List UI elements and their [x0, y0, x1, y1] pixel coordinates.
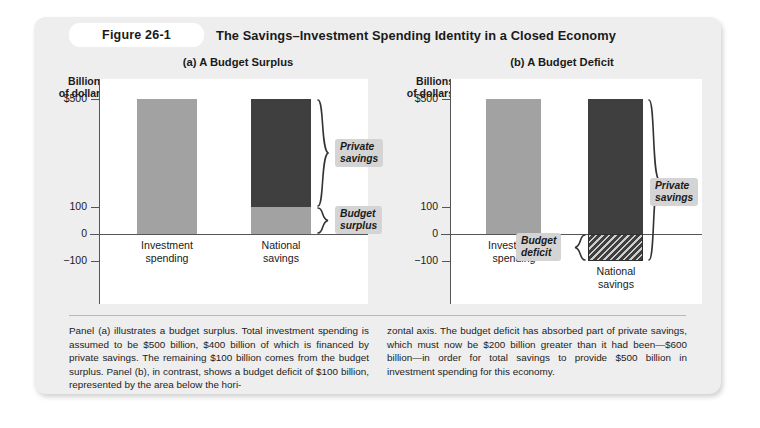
panel-a-tick-100 — [91, 207, 99, 208]
panel-a-bar-investment-spending — [137, 99, 197, 234]
caption-column-right: zontal axis. The budget deficit has abso… — [387, 324, 687, 392]
panel-a-barlabel-national-line1: National — [231, 239, 331, 252]
panel-b-callout-private-savings: Private savings — [650, 178, 698, 206]
panel-b-zero-line — [441, 234, 702, 235]
panel-a-barlabel-investment: Investment spending — [117, 239, 217, 264]
panel-a-brace-private-savings — [317, 99, 329, 207]
panel-a-barlabel-investment-line1: Investment — [117, 239, 217, 252]
panel-b-tick-100 — [442, 207, 450, 208]
panel-a-plot-area: $500 100 0 −100 Investment spending Nati… — [99, 79, 368, 304]
panel-b-ticklabel-500: $500 — [392, 92, 438, 104]
panel-a-ticklabel-0: 0 — [41, 227, 87, 239]
panel-b-brace-budget-deficit — [574, 234, 586, 261]
panel-a-tick-500 — [91, 99, 99, 100]
panel-a-callout-budget-surplus: Budget surplus — [335, 206, 382, 234]
panel-a-barlabel-national: National savings — [231, 239, 331, 264]
figure-title: The Savings–Investment Spending Identity… — [216, 28, 616, 43]
panel-b-callout-budget-deficit-line2: deficit — [521, 247, 556, 259]
panel-budget-surplus: (a) A Budget Surplus Billions of dollars… — [42, 53, 382, 309]
panel-a-y-axis — [99, 79, 100, 304]
panel-b-callout-budget-deficit-line1: Budget — [521, 235, 556, 247]
panel-b-y-axis — [450, 79, 451, 304]
panel-b-barlabel-national-line1: National — [566, 265, 666, 278]
panel-b-tick-500 — [442, 99, 450, 100]
panel-a-title: (a) A Budget Surplus — [42, 56, 408, 68]
figure-number-badge: Figure 26-1 — [69, 23, 204, 47]
panel-a-ticklabel-500: $500 — [41, 92, 87, 104]
panel-a-bar-private-savings — [251, 99, 311, 207]
panel-b-axis-caption-line1: Billions — [382, 75, 454, 87]
panel-b-callout-budget-deficit: Budget deficit — [516, 233, 561, 261]
panel-b-callout-private-savings-line2: savings — [655, 192, 693, 204]
panel-b-callout-private-savings-line1: Private — [655, 180, 693, 192]
panel-budget-deficit: (b) A Budget Deficit Billions of dollars… — [382, 53, 714, 309]
caption-column-left: Panel (a) illustrates a budget surplus. … — [69, 324, 369, 392]
panel-a-ticklabel-100: 100 — [41, 200, 87, 212]
panel-a-axis-caption-line1: Billions — [40, 75, 106, 87]
panel-b-tick-neg100 — [442, 261, 450, 262]
panel-a-callout-budget-surplus-line2: surplus — [340, 220, 377, 232]
panel-a-callout-private-savings: Private savings — [335, 139, 383, 167]
panel-b-bar-investment-spending — [486, 99, 541, 234]
panel-a-tick-neg100 — [91, 261, 99, 262]
panel-a-barlabel-national-line2: savings — [231, 252, 331, 265]
panel-a-ticklabel-neg100: −100 — [41, 254, 87, 266]
panel-b-ticklabel-0: 0 — [392, 227, 438, 239]
panel-a-zero-line — [90, 234, 368, 235]
panel-a-callout-private-savings-line2: savings — [340, 153, 378, 165]
panel-b-bar-private-savings — [588, 99, 643, 234]
panel-a-bar-budget-surplus — [251, 207, 311, 234]
panel-a-callout-budget-surplus-line1: Budget — [340, 208, 377, 220]
panel-b-plot-area: $500 100 0 −100 Investment spending Nati… — [450, 79, 702, 304]
panel-b-ticklabel-neg100: −100 — [392, 254, 438, 266]
panel-a-callout-private-savings-line1: Private — [340, 141, 378, 153]
figure-header: Figure 26-1 The Savings–Investment Spend… — [34, 17, 721, 51]
figure-number-label: Figure 26-1 — [102, 28, 171, 42]
panel-b-barlabel-national: National savings — [566, 265, 666, 290]
figure-card: Figure 26-1 The Savings–Investment Spend… — [34, 17, 721, 394]
figure-caption: Panel (a) illustrates a budget surplus. … — [69, 324, 689, 392]
panel-b-bar-budget-deficit — [588, 234, 643, 261]
panel-b-title: (b) A Budget Deficit — [382, 56, 728, 68]
panel-a-barlabel-investment-line2: spending — [117, 252, 217, 265]
panel-b-barlabel-national-line2: savings — [566, 278, 666, 291]
panel-b-ticklabel-100: 100 — [392, 200, 438, 212]
caption-divider — [69, 315, 686, 316]
panel-a-brace-budget-surplus — [317, 207, 329, 234]
